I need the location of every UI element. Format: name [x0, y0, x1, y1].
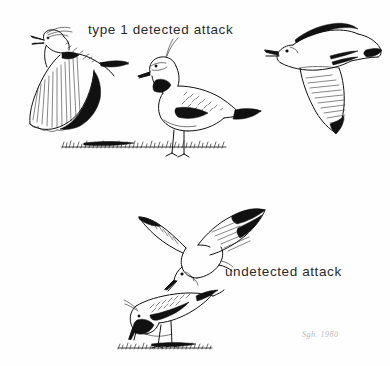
lapwing-feeding-head-down-figure	[124, 290, 224, 348]
ground-grass-line-top	[62, 141, 226, 148]
panel-top-detected-attack	[30, 23, 382, 157]
caption-type-1-detected-attack: type 1 detected attack	[88, 23, 233, 37]
ground-grass-line-bottom	[118, 343, 212, 350]
caption-undetected-attack: undetected attack	[225, 265, 342, 279]
illustration-canvas	[0, 0, 390, 366]
lapwing-standing-alert-figure	[138, 38, 261, 157]
bird-behaviour-illustration: type 1 detected attack undetected attack…	[0, 0, 390, 366]
lapwing-flying-calling-figure	[30, 27, 129, 131]
gull-flying-approach-figure	[265, 23, 383, 134]
artist-signature: Sgh. 1980	[302, 330, 339, 339]
